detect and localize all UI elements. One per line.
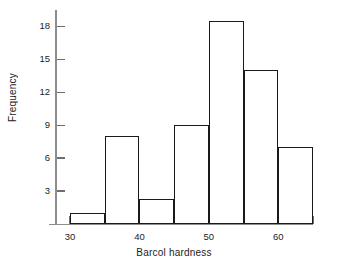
y-tick-label-9: 9: [24, 120, 50, 130]
bar-30-35: [70, 213, 105, 224]
y-tick-label-6: 6: [24, 153, 50, 163]
x-tick-label-60: 60: [263, 232, 293, 242]
x-tick-label-40: 40: [124, 232, 154, 242]
y-tick-9: [57, 125, 65, 126]
x-tick-label-50: 50: [194, 232, 224, 242]
plot-area: 369121518 30405060: [55, 10, 313, 224]
y-tick-12: [57, 92, 65, 93]
y-tick-label-18: 18: [24, 21, 50, 31]
bar-40-45: [139, 199, 174, 224]
bar-50-55: [209, 21, 244, 224]
y-tick-18: [57, 26, 65, 27]
y-tick-6: [57, 157, 65, 158]
y-tick-label-12: 12: [24, 87, 50, 97]
y-tick-15: [57, 59, 65, 60]
y-tick-3: [57, 190, 65, 191]
histogram-figure: 369121518 30405060 Frequency Barcol hard…: [0, 0, 348, 271]
bar-45-50: [174, 125, 209, 224]
bar-35-40: [105, 136, 140, 224]
y-tick-label-3: 3: [24, 186, 50, 196]
y-axis-label: Frequency: [8, 73, 22, 122]
y-axis-line: [55, 10, 57, 224]
y-tick-label-15: 15: [24, 54, 50, 64]
x-axis-label: Barcol hardness: [0, 248, 348, 258]
x-tick-label-30: 30: [55, 232, 85, 242]
bar-60-65: [278, 147, 313, 224]
bar-55-60: [244, 70, 279, 224]
